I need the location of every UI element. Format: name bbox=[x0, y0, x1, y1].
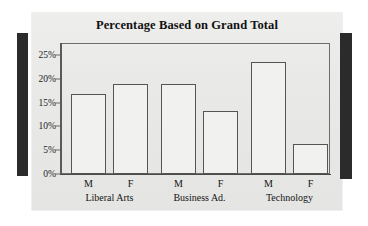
series-label-f: F bbox=[113, 178, 149, 189]
y-axis-tick-mark bbox=[55, 102, 60, 103]
series-label-m: M bbox=[71, 178, 107, 189]
bar-business-ad--m bbox=[161, 84, 196, 174]
bar-liberal-arts-f bbox=[113, 84, 148, 174]
y-axis-tick-label: 10% bbox=[24, 121, 56, 131]
y-axis-tick-label: 20% bbox=[24, 74, 56, 84]
bar-technology-m bbox=[251, 62, 286, 174]
y-axis-tick-mark bbox=[55, 55, 60, 56]
y-axis-tick-mark bbox=[55, 150, 60, 151]
bar-business-ad--f bbox=[203, 111, 238, 174]
right-edge-shadow-bar bbox=[340, 33, 352, 179]
y-axis-tick-label: 5% bbox=[24, 145, 56, 155]
category-label-technology: Technology bbox=[230, 192, 350, 203]
y-axis-tick-mark bbox=[55, 174, 60, 175]
y-axis-tick-label: 25% bbox=[24, 50, 56, 60]
y-axis-tick-mark bbox=[55, 126, 60, 127]
chart-title: Percentage Based on Grand Total bbox=[32, 18, 342, 33]
series-label-m: M bbox=[161, 178, 197, 189]
bar-technology-f bbox=[293, 144, 328, 174]
series-label-f: F bbox=[293, 178, 329, 189]
bar-liberal-arts-m bbox=[71, 94, 106, 174]
y-axis-line bbox=[60, 43, 62, 175]
figure-page: Percentage Based on Grand Total 0%5%10%1… bbox=[0, 0, 368, 226]
y-axis-tick-mark bbox=[55, 78, 60, 79]
series-label-m: M bbox=[251, 178, 287, 189]
y-axis-tick-label: 15% bbox=[24, 98, 56, 108]
series-label-f: F bbox=[203, 178, 239, 189]
y-axis-tick-label: 0% bbox=[24, 169, 56, 179]
